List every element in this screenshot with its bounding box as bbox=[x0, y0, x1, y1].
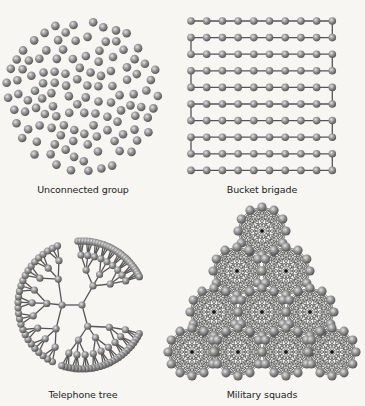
telephone-tree-panel bbox=[14, 237, 143, 372]
mesh-node bbox=[246, 341, 249, 344]
node bbox=[203, 100, 211, 108]
mesh-node bbox=[285, 369, 288, 372]
node bbox=[119, 130, 128, 139]
mesh-node bbox=[293, 356, 296, 359]
mesh-node bbox=[327, 311, 330, 314]
node bbox=[84, 323, 91, 330]
mesh-node bbox=[243, 311, 246, 314]
mesh-node bbox=[181, 341, 184, 344]
mesh-node bbox=[327, 364, 330, 367]
mesh-node bbox=[324, 302, 327, 305]
mesh-node bbox=[290, 359, 293, 362]
node bbox=[281, 307, 290, 316]
mesh-node bbox=[321, 351, 324, 354]
mesh-node bbox=[266, 302, 269, 305]
node bbox=[96, 271, 103, 278]
mesh-node bbox=[279, 311, 282, 314]
mesh-node bbox=[322, 314, 325, 317]
node bbox=[52, 160, 61, 169]
mesh-node bbox=[276, 320, 279, 323]
node bbox=[35, 121, 44, 130]
mesh-node bbox=[209, 324, 212, 327]
mesh-node bbox=[230, 271, 233, 274]
node bbox=[69, 21, 78, 30]
node bbox=[52, 325, 59, 332]
node bbox=[297, 133, 305, 141]
mesh-node bbox=[228, 356, 231, 359]
node bbox=[313, 84, 321, 92]
node bbox=[122, 277, 129, 284]
mesh-node bbox=[281, 283, 284, 286]
mesh-node bbox=[246, 360, 249, 363]
mesh-node bbox=[280, 261, 283, 264]
node bbox=[32, 104, 41, 113]
mesh-node bbox=[317, 306, 320, 309]
node bbox=[51, 22, 60, 31]
node bbox=[107, 98, 116, 107]
edge bbox=[56, 305, 62, 329]
mesh-node bbox=[227, 254, 230, 257]
node bbox=[52, 112, 61, 121]
mesh-node bbox=[329, 345, 332, 348]
mesh-node bbox=[319, 311, 322, 314]
mesh-node bbox=[336, 359, 339, 362]
node bbox=[51, 140, 60, 149]
mesh-node bbox=[233, 337, 236, 340]
mesh-node bbox=[322, 366, 325, 369]
mesh-node bbox=[270, 239, 273, 242]
mesh-node bbox=[300, 261, 303, 264]
node bbox=[281, 67, 289, 75]
mesh-node bbox=[266, 231, 269, 234]
node bbox=[12, 55, 21, 64]
node bbox=[257, 202, 266, 211]
node bbox=[266, 50, 274, 58]
mesh-node bbox=[288, 364, 291, 367]
mesh-node bbox=[322, 335, 325, 338]
mesh-node bbox=[259, 224, 262, 227]
mesh-node bbox=[259, 235, 262, 238]
node bbox=[266, 117, 274, 125]
node bbox=[115, 147, 124, 156]
mesh-node bbox=[256, 302, 259, 305]
mesh-node bbox=[304, 302, 307, 305]
node bbox=[187, 17, 195, 25]
mesh-node bbox=[208, 315, 211, 318]
mesh-node bbox=[240, 337, 243, 340]
mesh-node bbox=[294, 366, 297, 369]
mesh-node bbox=[332, 345, 335, 348]
mesh-node bbox=[227, 341, 230, 344]
node bbox=[187, 67, 195, 75]
node bbox=[18, 134, 27, 143]
node bbox=[97, 72, 106, 81]
squad-center bbox=[260, 229, 264, 233]
mesh-node bbox=[264, 297, 267, 300]
mesh-node bbox=[232, 355, 235, 358]
node bbox=[12, 119, 21, 128]
mesh-node bbox=[256, 238, 259, 241]
mesh-node bbox=[226, 279, 229, 282]
node bbox=[108, 82, 117, 91]
node bbox=[221, 368, 230, 377]
node bbox=[234, 117, 242, 125]
node bbox=[315, 327, 324, 336]
mesh-node bbox=[199, 307, 202, 310]
mesh-node bbox=[267, 351, 270, 354]
node bbox=[269, 368, 278, 377]
mesh-node bbox=[245, 221, 248, 224]
node bbox=[83, 81, 92, 90]
node bbox=[107, 280, 114, 287]
node bbox=[208, 266, 217, 275]
node bbox=[326, 295, 335, 304]
node bbox=[117, 106, 126, 115]
node bbox=[103, 112, 112, 121]
mesh-node bbox=[326, 346, 329, 349]
mesh-node bbox=[223, 311, 226, 314]
mesh-node bbox=[276, 265, 279, 268]
mesh-node bbox=[285, 280, 288, 283]
node bbox=[70, 153, 79, 162]
node bbox=[92, 334, 99, 341]
mesh-node bbox=[265, 306, 268, 309]
mesh-node bbox=[247, 351, 250, 354]
mesh-node bbox=[326, 359, 329, 362]
mesh-node bbox=[315, 360, 318, 363]
